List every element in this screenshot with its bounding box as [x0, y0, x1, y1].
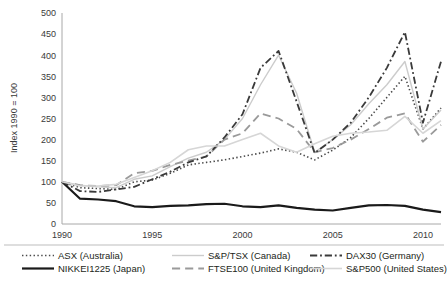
x-tick-1990: 1990	[52, 230, 72, 240]
legend-label-4[interactable]: DAX30 (Germany)	[346, 250, 424, 261]
x-axis-tick-labels: 19901995200020052010	[52, 230, 433, 240]
chart-container: 050100150200250300350400450500 199019952…	[0, 0, 448, 284]
y-axis-title: Index 1990 = 100	[9, 83, 19, 153]
x-tick-2000: 2000	[232, 230, 252, 240]
legend-label-0[interactable]: ASX (Australia)	[58, 250, 123, 261]
y-tick-450: 450	[41, 29, 56, 39]
x-tick-2005: 2005	[323, 230, 343, 240]
series-line-4	[62, 32, 441, 192]
series-lines	[62, 32, 441, 212]
y-tick-500: 500	[41, 8, 56, 18]
y-tick-400: 400	[41, 51, 56, 61]
y-tick-300: 300	[41, 93, 56, 103]
series-line-3	[62, 113, 441, 186]
legend-label-3[interactable]: FTSE100 (United Kingdom)	[208, 263, 325, 274]
x-tick-1995: 1995	[142, 230, 162, 240]
series-line-5	[62, 116, 441, 186]
legend-label-1[interactable]: NIKKEI1225 (Japan)	[58, 263, 145, 274]
y-tick-50: 50	[46, 198, 56, 208]
y-tick-100: 100	[41, 177, 56, 187]
y-tick-150: 150	[41, 156, 56, 166]
y-tick-200: 200	[41, 135, 56, 145]
legend-label-5[interactable]: S&P500 (United States)	[346, 263, 447, 274]
y-tick-250: 250	[41, 114, 56, 124]
legend-label-2[interactable]: S&P/TSX (Canada)	[208, 250, 290, 261]
y-tick-0: 0	[51, 219, 56, 229]
line-chart: 050100150200250300350400450500 199019952…	[0, 0, 448, 284]
x-tick-2010: 2010	[413, 230, 433, 240]
series-line-2	[62, 55, 441, 188]
y-tick-350: 350	[41, 72, 56, 82]
chart-legend: ASX (Australia)S&P/TSX (Canada)DAX30 (Ge…	[22, 250, 447, 274]
y-axis-tick-labels: 050100150200250300350400450500	[41, 8, 56, 229]
